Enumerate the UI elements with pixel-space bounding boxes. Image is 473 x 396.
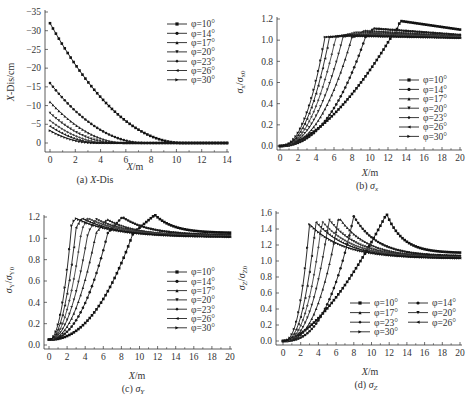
series-20deg xyxy=(49,112,229,145)
x-tick-label: 14 xyxy=(222,155,232,165)
x-tick-label: 20 xyxy=(225,352,235,362)
x-tick-label: 14 xyxy=(401,153,411,163)
x-tick-label: 20 xyxy=(455,153,465,163)
legend-label: φ=30° xyxy=(191,323,215,333)
x-tick-label: 10 xyxy=(135,352,145,362)
y-axis-label: σx/σx0 xyxy=(234,70,247,94)
x-tick-label: 0 xyxy=(48,155,53,165)
y-tick-label: 0.0 xyxy=(260,336,272,346)
y-tick-label: −25 xyxy=(26,45,41,55)
y-tick-label: 1.4 xyxy=(260,224,272,234)
x-tick-label: 10 xyxy=(172,155,182,165)
y-tick-label: −30 xyxy=(26,26,41,36)
x-axis-label: X/m xyxy=(361,366,379,377)
legend: φ=10°φ=14°φ=17°φ=20°φ=23°φ=26°φ=30° xyxy=(167,19,215,85)
x-tick-label: 20 xyxy=(455,348,465,358)
y-tick-label: 1.0 xyxy=(260,256,272,266)
y-tick-label: 0.8 xyxy=(260,272,272,282)
legend-item: φ=30° xyxy=(399,132,447,142)
y-tick-label: 0.4 xyxy=(260,304,272,314)
x-tick-label: 18 xyxy=(438,348,448,358)
legend-label: φ=20° xyxy=(432,308,456,318)
y-tick-label: 0.0 xyxy=(261,141,273,151)
chart-panel-sigma-y: 024681012141618200.00.20.40.60.81.01.2X/… xyxy=(3,212,235,396)
legend-item: φ=26° xyxy=(408,318,456,328)
y-axis-label: σZ/σZ0 xyxy=(236,265,249,290)
panel-caption: (b) σx xyxy=(356,180,379,193)
x-tick-label: 4 xyxy=(314,153,319,163)
legend-label: φ=14° xyxy=(432,298,456,308)
y-tick-label: 0.2 xyxy=(261,120,273,130)
x-tick-label: 12 xyxy=(153,352,163,362)
legend-item: φ=23° xyxy=(350,318,398,328)
legend-label: φ=30° xyxy=(374,327,398,337)
legend-item: φ=17° xyxy=(350,308,398,318)
x-tick-label: 6 xyxy=(101,352,106,362)
x-tick-label: 2 xyxy=(296,153,301,163)
x-tick-label: 12 xyxy=(383,153,393,163)
x-tick-label: 12 xyxy=(384,348,394,358)
x-tick-label: 14 xyxy=(171,352,181,362)
series-17deg xyxy=(49,101,229,145)
panel-caption: (c) σY xyxy=(122,383,146,396)
y-tick-label: 1.2 xyxy=(260,240,272,250)
legend: φ=10°φ=14°φ=17°φ=20°φ=23°φ=26°φ=30° xyxy=(350,298,456,337)
x-tick-label: 18 xyxy=(437,153,447,163)
chart-panel-sigma-z: 024681012141618200.00.20.40.60.81.01.21.… xyxy=(236,208,465,392)
x-tick-label: 2 xyxy=(73,155,78,165)
legend: φ=10°φ=14°φ=17°φ=20°φ=23°φ=26°φ=30° xyxy=(167,267,215,333)
figure-canvas: 024681012140−5−10−15−20−25−30−35X/mX-Dis… xyxy=(0,0,473,396)
x-tick-label: 12 xyxy=(197,155,207,165)
x-tick-label: 4 xyxy=(316,348,321,358)
x-tick-label: 16 xyxy=(189,352,199,362)
legend: φ=10°φ=14°φ=17°φ=20°φ=23°φ=26°φ=30° xyxy=(399,75,447,141)
x-tick-label: 16 xyxy=(419,153,429,163)
chart-panel-x-dis: 024681012140−5−10−15−20−25−30−35X/mX-Dis… xyxy=(5,7,232,186)
y-tick-label: 0.4 xyxy=(28,298,40,308)
legend-label: φ=17° xyxy=(374,308,398,318)
y-axis-label: X-Dis/cm xyxy=(5,63,16,103)
legend-item: φ=30° xyxy=(167,75,215,85)
y-tick-label: −35 xyxy=(26,7,41,17)
x-tick-label: 8 xyxy=(149,155,154,165)
x-tick-label: 2 xyxy=(65,352,70,362)
x-tick-label: 8 xyxy=(351,348,356,358)
y-tick-label: 1.2 xyxy=(261,14,273,24)
x-tick-label: 2 xyxy=(298,348,303,358)
y-tick-label: 0.6 xyxy=(261,78,273,88)
y-tick-label: 0.8 xyxy=(261,57,273,67)
x-axis-label: X/m xyxy=(361,167,379,178)
y-tick-label: 1.6 xyxy=(260,208,272,218)
y-tick-label: 0.8 xyxy=(28,255,40,265)
y-tick-label: 0.6 xyxy=(260,288,272,298)
x-tick-label: 18 xyxy=(207,352,217,362)
x-tick-label: 6 xyxy=(334,348,339,358)
y-tick-label: 1.2 xyxy=(28,212,40,222)
x-tick-label: 14 xyxy=(402,348,412,358)
x-tick-label: 0 xyxy=(281,348,286,358)
x-tick-label: 4 xyxy=(98,155,103,165)
panel-caption: (a) X-Dis xyxy=(77,174,114,186)
legend-item: φ=20° xyxy=(408,308,456,318)
chart-panel-sigma-x: 024681012141618200.00.20.40.60.81.01.2X/… xyxy=(234,14,465,193)
y-tick-label: 0.6 xyxy=(28,276,40,286)
y-tick-label: 0.0 xyxy=(28,340,40,350)
legend-item: φ=14° xyxy=(408,298,456,308)
x-tick-label: 4 xyxy=(83,352,88,362)
panel-caption: (d) σZ xyxy=(354,379,377,392)
y-tick-label: −20 xyxy=(26,63,41,73)
x-tick-label: 8 xyxy=(350,153,355,163)
legend-label: φ=10° xyxy=(374,298,398,308)
legend-item: φ=30° xyxy=(350,327,398,337)
y-tick-label: 1.0 xyxy=(261,35,273,45)
y-tick-label: 0 xyxy=(36,138,41,148)
y-tick-label: 0.2 xyxy=(28,319,40,329)
y-tick-label: 0.2 xyxy=(260,320,272,330)
x-tick-label: 0 xyxy=(278,153,283,163)
series-14deg xyxy=(49,82,229,144)
y-tick-label: 1.0 xyxy=(28,234,40,244)
y-axis-label: σY/σY0 xyxy=(3,266,16,293)
legend-label: φ=30° xyxy=(191,75,215,85)
x-tick-label: 0 xyxy=(47,352,52,362)
x-tick-label: 10 xyxy=(365,153,375,163)
